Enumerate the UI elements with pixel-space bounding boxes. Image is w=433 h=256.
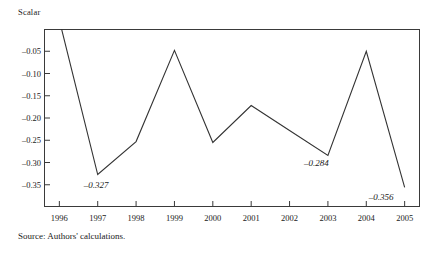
x-axis-ticks [59, 201, 404, 207]
source-note: Source: Authors' calculations. [18, 231, 125, 242]
x-axis-tick-label: 2003 [308, 214, 348, 223]
x-axis-tick-label: 2005 [385, 214, 425, 223]
x-axis-tick-label: 2002 [270, 214, 310, 223]
y-axis-tick-label: –0.10 [1, 70, 41, 79]
clipped-header-strip [0, 0, 433, 5]
y-axis-tick-label: –0.15 [1, 92, 41, 101]
data-series-line [59, 29, 404, 187]
x-axis-tick-label: 1999 [154, 214, 194, 223]
y-axis-tick-label: –0.25 [1, 136, 41, 145]
y-axis-ticks [44, 51, 50, 185]
x-axis-tick-label: 1997 [78, 214, 118, 223]
y-axis-tick-label: –0.20 [1, 114, 41, 123]
y-axis-tick-label: –0.30 [1, 159, 41, 168]
data-point-label: –0.284 [304, 159, 329, 168]
x-axis-tick-label-group: 1996199719981999200020012002200320042005 [0, 214, 433, 226]
x-axis-tick-label: 2001 [231, 214, 271, 223]
y-axis-tick-label: –0.05 [1, 47, 41, 56]
data-point-label: –0.327 [84, 181, 109, 190]
x-axis-tick-label: 2004 [346, 214, 386, 223]
x-axis-tick-label: 2000 [193, 214, 233, 223]
x-axis-tick-label: 1996 [39, 214, 79, 223]
y-axis-tick-label: –0.35 [1, 181, 41, 190]
x-axis-tick-label: 1998 [116, 214, 156, 223]
data-point-label: –0.356 [369, 193, 394, 202]
